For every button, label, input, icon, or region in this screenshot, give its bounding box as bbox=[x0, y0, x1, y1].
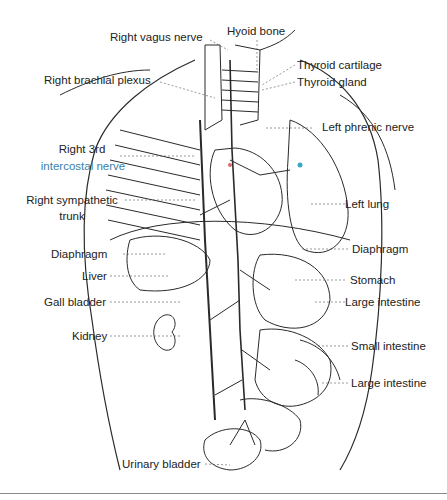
bottom-divider bbox=[0, 493, 447, 494]
label-thyroid-gland: Thyroid gland bbox=[297, 76, 367, 89]
label-hyoid-bone: Hyoid bone bbox=[227, 25, 285, 38]
label-large-intestine-upper: Large intestine bbox=[345, 296, 420, 309]
label-large-intestine-lower: Large intestine bbox=[351, 377, 426, 390]
label-trunk: trunk bbox=[22, 210, 122, 223]
label-left-phrenic-nerve: Left phrenic nerve bbox=[322, 121, 414, 134]
label-liver: Liver bbox=[82, 270, 107, 283]
label-right-sympathetic: Right sympathetic bbox=[22, 194, 122, 207]
label-gall-bladder: Gall bladder bbox=[44, 296, 106, 309]
label-small-intestine: Small intestine bbox=[351, 340, 426, 353]
label-stomach: Stomach bbox=[350, 274, 395, 287]
label-diaphragm-left-side: Diaphragm bbox=[352, 243, 408, 256]
label-right-brachial-plexus: Right brachial plexus bbox=[44, 74, 151, 87]
label-kidney: Kidney bbox=[72, 330, 107, 343]
label-urinary-bladder: Urinary bladder bbox=[122, 458, 201, 471]
label-right-3rd: Right 3rd bbox=[42, 143, 122, 156]
label-intercostal-nerve: intercostal nerve bbox=[38, 160, 128, 173]
anatomy-figure: Right vagus nerve Hyoid bone Thyroid car… bbox=[0, 0, 447, 500]
label-thyroid-cartilage: Thyroid cartilage bbox=[297, 59, 382, 72]
label-diaphragm-right-side: Diaphragm bbox=[51, 248, 107, 261]
label-right-vagus-nerve: Right vagus nerve bbox=[110, 31, 203, 44]
label-left-lung: Left lung bbox=[345, 198, 389, 211]
